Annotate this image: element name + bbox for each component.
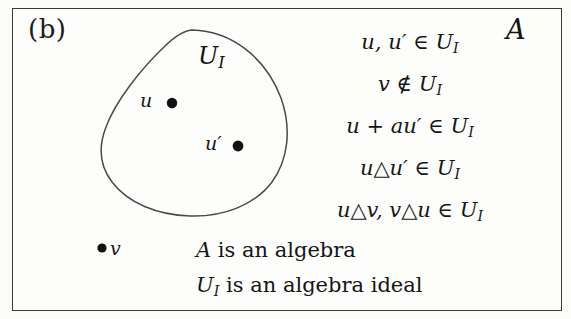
statement-subject: A <box>196 238 211 262</box>
membership-equation-list: u, u′ ∈ UI v ∉ UI u + au′ ∈ UI u△u′ ∈ UI… <box>300 24 520 234</box>
equation-line: u△v, v△u ∈ UI <box>300 192 520 234</box>
equation-lhs: u, u′ <box>361 30 406 54</box>
point-u-prime-label: u′ <box>205 132 222 154</box>
equation-rhs-base: U <box>450 114 468 138</box>
equation-line: u + au′ ∈ UI <box>300 108 520 150</box>
equation-rhs-base: U <box>437 156 455 180</box>
equation-rhs-subscript: I <box>436 82 442 98</box>
equation-rhs-base: U <box>435 30 453 54</box>
figure-panel-b: (b) A UI u u′ v u, u′ ∈ UI v ∉ UI u + au… <box>0 0 571 319</box>
point-u-label: u <box>140 89 152 111</box>
equation-lhs: u△v, v△u <box>337 198 431 222</box>
equation-line: u, u′ ∈ UI <box>300 24 520 66</box>
statement-subject: U <box>196 273 214 297</box>
equation-rhs-base: U <box>419 72 437 96</box>
statement-text: is an algebra <box>218 238 356 262</box>
equation-relation: ∉ <box>396 72 412 96</box>
statement-text: is an algebra ideal <box>226 273 423 297</box>
ideal-region-outline <box>101 30 287 216</box>
point-v-label: v <box>110 237 121 259</box>
equation-line: u△u′ ∈ UI <box>300 150 520 192</box>
equation-rhs-subscript: I <box>453 40 459 56</box>
equation-lhs: u△u′ <box>360 156 408 180</box>
equation-rhs-subscript: I <box>477 208 483 224</box>
equation-rhs-subscript: I <box>468 124 474 140</box>
equation-lhs: u + au′ <box>346 114 421 138</box>
point-v <box>97 243 106 252</box>
equation-relation: ∈ <box>428 114 444 138</box>
equation-rhs-subscript: I <box>454 166 460 182</box>
ideal-region-label-base: U <box>198 42 218 70</box>
ideal-region-label-subscript: I <box>218 53 224 72</box>
ideal-region-label: UI <box>198 42 225 72</box>
statement-subject-subscript: I <box>214 283 220 299</box>
point-u-prime <box>233 141 244 152</box>
equation-line: v ∉ UI <box>300 66 520 108</box>
equation-relation: ∈ <box>413 30 429 54</box>
statement-line: A is an algebra <box>196 233 526 268</box>
statement-list: A is an algebra UI is an algebra ideal <box>196 233 526 309</box>
equation-lhs: v <box>378 72 390 96</box>
point-u <box>167 98 177 108</box>
equation-relation: ∈ <box>415 156 431 180</box>
statement-line: UI is an algebra ideal <box>196 268 526 309</box>
equation-relation: ∈ <box>438 198 454 222</box>
equation-rhs-base: U <box>460 198 478 222</box>
